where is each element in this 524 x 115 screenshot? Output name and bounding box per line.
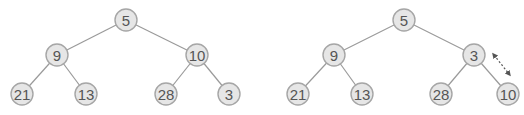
node-value: 3 [470, 47, 478, 64]
before-tree-node: 5 [115, 9, 137, 31]
node-value: 21 [290, 86, 307, 103]
after-tree-node: 9 [323, 44, 345, 66]
node-value: 5 [400, 12, 408, 29]
before-tree-node: 3 [218, 83, 240, 105]
node-value: 9 [330, 47, 338, 64]
after-tree-node: 28 [430, 83, 452, 105]
node-value: 10 [189, 47, 206, 64]
node-value: 3 [225, 86, 233, 103]
swap-arrow-icon [494, 55, 509, 74]
before-tree-node: 9 [46, 44, 68, 66]
node-value: 13 [354, 86, 371, 103]
node-value: 28 [158, 86, 175, 103]
before-tree-node: 21 [11, 83, 33, 105]
after-tree-node: 5 [393, 9, 415, 31]
heap-diagram: 5910211328359321132810 [0, 0, 524, 115]
after-tree-node: 13 [351, 83, 373, 105]
after-tree-node: 10 [497, 83, 519, 105]
node-value: 21 [14, 86, 31, 103]
after-tree-node: 21 [287, 83, 309, 105]
node-value: 5 [122, 12, 130, 29]
after-tree-edge [404, 20, 474, 55]
before-tree-node: 10 [186, 44, 208, 66]
nodes: 5910211328359321132810 [11, 9, 519, 105]
before-tree-node: 28 [155, 83, 177, 105]
node-value: 9 [53, 47, 61, 64]
node-value: 10 [500, 86, 517, 103]
before-tree-node: 13 [75, 83, 97, 105]
before-tree-edge [126, 20, 197, 55]
node-value: 13 [78, 86, 95, 103]
swap-arrow [494, 55, 509, 74]
node-value: 28 [433, 86, 450, 103]
after-tree-node: 3 [463, 44, 485, 66]
edges [22, 20, 508, 94]
after-tree-edge [334, 20, 404, 55]
